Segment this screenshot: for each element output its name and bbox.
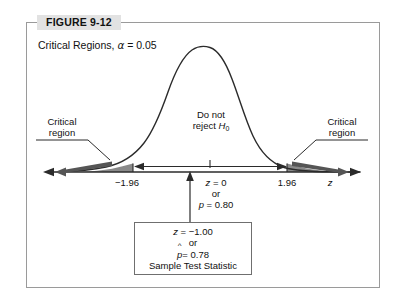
stat-p-variable: p	[177, 249, 182, 260]
critical-region-label-right: Critical region	[316, 117, 368, 139]
stat-phat-row: ^p = 0.78	[177, 249, 209, 260]
do-not-reject-label: Do not reject H0	[180, 110, 242, 132]
stat-z-row: z = −1.00	[173, 226, 213, 237]
axis-name-label: z	[318, 178, 342, 189]
null-z-value: = 0	[210, 177, 226, 188]
do-not-reject-line1: Do not	[197, 109, 225, 120]
p-hat-symbol: ^p	[177, 249, 182, 260]
sample-test-statistic-box: z = −1.00 or ^p = 0.78 Sample Test Stati…	[134, 222, 252, 275]
hat-accent: ^	[178, 242, 182, 250]
null-p-value: = 0.80	[204, 199, 233, 210]
figure-number-tab: FIGURE 9-12	[37, 15, 121, 30]
critical-left-line2: region	[49, 127, 75, 138]
critical-left-line1: Critical	[47, 116, 76, 127]
stat-box-title: Sample Test Statistic	[149, 260, 237, 271]
axis-tick-label-negative: −1.96	[104, 178, 150, 189]
stat-z-value: = −1.00	[178, 226, 213, 237]
caption-prefix: Critical Regions,	[38, 39, 117, 51]
do-not-reject-line2-prefix: reject	[193, 120, 219, 131]
stat-or-row: or	[189, 237, 197, 248]
critical-region-label-left: Critical region	[36, 117, 88, 139]
critical-right-line1: Critical	[327, 116, 356, 127]
null-hypothesis-subscript: 0	[225, 125, 229, 132]
critical-right-line2: region	[329, 127, 355, 138]
axis-tick-label-positive: 1.96	[266, 178, 308, 189]
null-value-label: z = 0 or p = 0.80	[186, 178, 246, 211]
caption-suffix: = 0.05	[124, 39, 156, 51]
figure-number-label: FIGURE 9-12	[46, 17, 112, 28]
figure-caption: Critical Regions, α = 0.05	[38, 40, 157, 52]
stat-p-value: = 0.78	[182, 249, 209, 260]
null-value-p-line: p = 0.80	[186, 200, 246, 211]
